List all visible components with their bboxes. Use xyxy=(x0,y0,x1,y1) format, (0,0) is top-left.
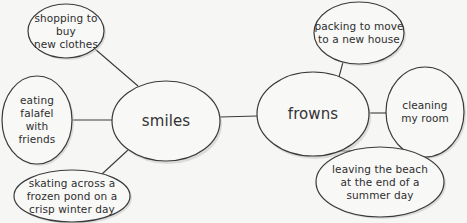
node-shopping-label: shopping to buy new clothes xyxy=(28,6,104,56)
node-falafel-label: eating falafel with friends xyxy=(4,78,70,162)
node-cleaning-label: cleaning my room xyxy=(388,90,462,134)
node-leaving-label: leaving the beach at the end of a summer… xyxy=(318,156,442,208)
node-falafel-line-1: eating xyxy=(20,94,54,107)
node-falafel-line-3: with xyxy=(26,120,49,133)
node-packing-label: packing to move to a new house xyxy=(314,8,404,58)
hub-smiles-label: smiles xyxy=(112,103,220,139)
hub-frowns-text: frowns xyxy=(288,105,339,123)
connector-frowns-packing xyxy=(339,62,343,77)
node-packing-line-2: to a new house xyxy=(318,33,400,46)
node-shopping-line-2: new clothes xyxy=(34,38,98,51)
connector-smiles-frowns xyxy=(220,116,257,117)
node-skating-line-3: crisp winter day xyxy=(29,203,115,216)
connector-smiles-skating xyxy=(102,150,128,174)
node-skating-label: skating across a frozen pond on a crisp … xyxy=(14,172,130,220)
hub-frowns-label: frowns xyxy=(257,96,369,132)
node-leaving-line-1: leaving the beach xyxy=(332,163,428,176)
node-skating-line-2: frozen pond on a xyxy=(27,190,117,203)
node-leaving-line-2: at the end of a xyxy=(341,176,420,189)
node-falafel-line-4: friends xyxy=(19,133,56,146)
node-falafel-line-2: falafel xyxy=(20,107,53,120)
node-leaving-line-3: summer day xyxy=(346,189,413,202)
node-cleaning-line-1: cleaning xyxy=(402,99,447,112)
node-shopping-line-1: shopping to buy xyxy=(28,12,104,38)
node-packing-line-1: packing to move xyxy=(314,20,403,33)
node-skating-line-1: skating across a xyxy=(29,177,116,190)
node-cleaning-line-2: my room xyxy=(401,112,449,125)
hub-smiles-text: smiles xyxy=(142,112,190,130)
